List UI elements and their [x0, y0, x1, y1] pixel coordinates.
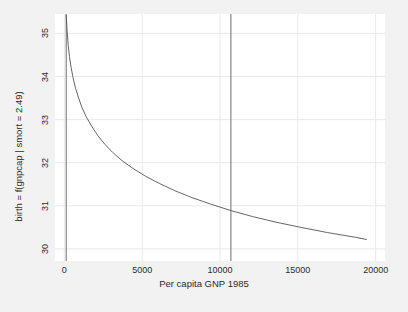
y-axis-tick-label: 35 — [38, 27, 52, 39]
x-axis-tick-label: 15000 — [285, 265, 310, 275]
plot-svg — [55, 14, 385, 261]
y-axis-tick-label: 33 — [38, 114, 52, 126]
y-axis-tick-label: 32 — [38, 157, 52, 169]
y-axis-tick-label: 31 — [38, 200, 52, 212]
y-axis-tick-text: 33 — [40, 115, 50, 125]
y-axis-tick-text: 34 — [40, 71, 50, 81]
chart-figure: 303132333435 05000100001500020000 Per ca… — [0, 0, 408, 312]
y-axis-tick-text: 35 — [40, 28, 50, 38]
y-axis-tick-label: 30 — [38, 243, 52, 255]
y-axis-tick-text: 31 — [40, 201, 50, 211]
y-axis-title-container: birth = f(gnpcap | smort = 2.49) — [10, 0, 26, 312]
x-axis-title: Per capita GNP 1985 — [0, 278, 408, 289]
x-axis-tick-label: 20000 — [363, 265, 388, 275]
vertical-reference-lines — [66, 14, 231, 261]
grid-lines — [55, 14, 385, 261]
y-axis-tick-label: 34 — [38, 71, 52, 83]
x-axis-tick-label: 0 — [62, 265, 67, 275]
y-axis-title: birth = f(gnpcap | smort = 2.49) — [13, 91, 24, 221]
y-axis-tick-text: 32 — [40, 158, 50, 168]
plot-panel — [55, 14, 385, 261]
y-axis-tick-text: 30 — [40, 244, 50, 254]
x-axis-tick-label: 5000 — [132, 265, 152, 275]
x-axis-tick-label: 10000 — [207, 265, 232, 275]
